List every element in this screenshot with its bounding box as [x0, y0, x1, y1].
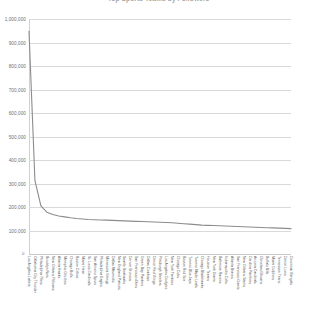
- x-axis-tick-label: Baltimore Ravens: [217, 256, 221, 284]
- x-axis-tick-label: Cincinnati Bengals: [289, 256, 293, 285]
- x-axis-tick-label: Dallas Cowboys: [146, 256, 150, 281]
- y-axis-tick-label: 900,000: [9, 40, 26, 45]
- x-axis-tick-label: New York Giants: [211, 256, 215, 282]
- x-axis-tick-label: San Francisco Giants: [235, 256, 239, 289]
- x-axis-tick-label: Miami Heat: [80, 256, 84, 274]
- x-axis-tick-label: Minnesota Vikings: [104, 256, 108, 284]
- x-axis-tick-label: Denver Broncos: [128, 256, 132, 281]
- x-axis-tick-label: Detroit Red Wings: [152, 256, 156, 284]
- chart-title: Top Sports Teams by Followers: [0, 0, 317, 3]
- x-axis-tick-label: Cleveland Browns: [259, 256, 263, 284]
- x-axis-tick-label: Seattle Seahawks: [122, 256, 126, 284]
- y-axis-tick-label: 600,000: [9, 111, 26, 116]
- x-axis-tick-label: Buffalo Bills: [265, 256, 269, 274]
- x-axis-tick-label: Chicago Cubs: [175, 256, 179, 278]
- y-axis-tick-label: 100,000: [9, 228, 26, 233]
- x-axis-tick-label: New Orleans Saints: [241, 256, 245, 287]
- x-axis-tick-label: Chicago Blackhawks: [199, 256, 203, 288]
- y-axis-tick-label: 700,000: [9, 87, 26, 92]
- x-axis-tick-label: Indianapolis Colts: [223, 256, 227, 284]
- x-axis-tick-label: Chicago Bulls: [68, 256, 72, 277]
- y-axis-tick-label: 800,000: [9, 64, 26, 69]
- x-axis-tick-label: Los Angeles Dodgers: [164, 256, 168, 289]
- x-axis-tick-label: Los Angeles Lakers: [27, 256, 31, 287]
- x-origin-label: 0: [22, 251, 24, 256]
- x-axis-tick-label: Philadelphia Eagles: [98, 256, 102, 287]
- y-axis-tick-label: 400,000: [9, 158, 26, 163]
- x-axis-tick-label: Arizona Cardinals: [253, 256, 257, 284]
- x-axis-tick-label: Detroit Lions: [283, 256, 287, 276]
- x-axis-tick-label: Atlanta Braves: [229, 256, 233, 279]
- gridline: [29, 254, 291, 255]
- x-axis-tick-label: Miami Dolphins: [271, 256, 275, 280]
- x-axis-tick-label: Boston Celtics: [74, 256, 78, 278]
- x-axis-tick-label: Brooklyn Nets: [44, 256, 48, 278]
- x-axis-tick-label: San Francisco 49ers: [134, 256, 138, 288]
- x-axis-tick-label: Dallas Mavericks: [110, 256, 114, 282]
- y-axis-tick-label: 300,000: [9, 181, 26, 186]
- x-axis-tick-label: Philadelphia 76ers: [39, 256, 43, 285]
- x-axis-tick-label: Carolina Panthers: [247, 256, 251, 284]
- x-axis-tick-label: Atlanta Hawks: [56, 256, 60, 278]
- chart-container: Top Sports Teams by Followers 100,000200…: [0, 0, 317, 333]
- x-axis-tick-label: Oklahoma City Thunder: [33, 256, 37, 293]
- x-axis-tick-label: Memphis Grizzlies: [62, 256, 66, 285]
- x-axis-tick-label: St. Louis Cardinals: [86, 256, 90, 285]
- y-axis-tick-label: 1,000,000: [5, 17, 26, 22]
- x-axis-tick-label: Houston Texans: [205, 256, 209, 281]
- x-axis-tick-label: San Antonio Spurs: [92, 256, 96, 285]
- x-axis-tick-label: New York Yankees: [170, 256, 174, 285]
- x-axis-tick-label: Green Bay Packers: [140, 256, 144, 286]
- y-axis-tick-label: 200,000: [9, 205, 26, 210]
- x-axis-tick-label: Tennessee Titans: [277, 256, 281, 283]
- plot-area: 100,000200,000300,000400,000500,000600,0…: [29, 19, 291, 254]
- x-axis-tick-label: Toronto Maple Leafs: [193, 256, 197, 288]
- series-line: [29, 19, 291, 254]
- x-axis-tick-label: Toronto Blue Jays: [187, 256, 191, 284]
- y-axis-tick-label: 500,000: [9, 134, 26, 139]
- x-axis-tick-label: Pittsburgh Steelers: [158, 256, 162, 286]
- x-axis-labels: Los Angeles LakersOklahoma City ThunderP…: [29, 256, 291, 333]
- x-axis-tick-label: Boston Red Sox: [181, 256, 185, 281]
- x-axis-tick-label: New Orleans Pelicans: [50, 256, 54, 290]
- x-axis-tick-label: New England Patriots: [116, 256, 120, 290]
